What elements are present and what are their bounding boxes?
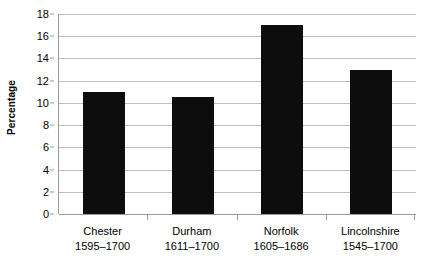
y-axis-tick-label: 8 — [43, 120, 49, 131]
category-name: Norfolk — [237, 224, 326, 239]
bar — [172, 97, 214, 214]
y-axis-tick-label: 18 — [37, 9, 49, 20]
category-separators — [58, 214, 415, 220]
y-axis-tick-mark — [50, 58, 54, 59]
y-axis-tick-mark — [50, 80, 54, 81]
category-period: 1611–1700 — [147, 239, 236, 254]
y-axis-tick-mark — [50, 14, 54, 15]
category-separator — [414, 214, 415, 220]
category-period: 1595–1700 — [58, 239, 147, 254]
bar — [83, 92, 125, 214]
y-axis-tick-mark — [50, 36, 54, 37]
plot-area — [58, 14, 416, 214]
y-axis-tick-mark — [50, 169, 54, 170]
category-separator — [326, 214, 327, 220]
y-axis-tick-label: 6 — [43, 142, 49, 153]
y-axis-tick-label: 10 — [37, 97, 49, 108]
x-axis-category-labels: Chester1595–1700Durham1611–1700Norfolk16… — [58, 224, 415, 268]
category-name: Chester — [58, 224, 147, 239]
y-axis-tick-label: 0 — [43, 209, 49, 220]
y-axis-tick-mark — [50, 147, 54, 148]
y-axis-tick-mark — [50, 214, 54, 215]
category-label: Lincolnshire1545–1700 — [326, 224, 415, 254]
category-period: 1545–1700 — [326, 239, 415, 254]
category-label: Norfolk1605–1686 — [237, 224, 326, 254]
y-axis-tick-label: 14 — [37, 53, 49, 64]
y-axis-tick-mark — [50, 191, 54, 192]
y-axis-title: Percentage — [0, 0, 22, 214]
category-name: Durham — [147, 224, 236, 239]
category-period: 1605–1686 — [237, 239, 326, 254]
y-axis-tick-labels: 024681012141618 — [22, 14, 54, 214]
y-axis-tick-label: 16 — [37, 31, 49, 42]
category-name: Lincolnshire — [326, 224, 415, 239]
category-label: Durham1611–1700 — [147, 224, 236, 254]
bar-chart: Percentage 024681012141618 Chester1595–1… — [0, 0, 428, 271]
y-axis-tick-label: 12 — [37, 75, 49, 86]
bar — [350, 70, 392, 214]
y-axis-tick-label: 4 — [43, 164, 49, 175]
category-separator — [237, 214, 238, 220]
y-axis-tick-mark — [50, 102, 54, 103]
y-axis-title-label: Percentage — [6, 80, 17, 135]
bar — [261, 25, 303, 214]
y-axis-tick-mark — [50, 125, 54, 126]
y-axis-tick-label: 2 — [43, 186, 49, 197]
bars-series — [59, 14, 416, 214]
category-separator — [147, 214, 148, 220]
category-label: Chester1595–1700 — [58, 224, 147, 254]
